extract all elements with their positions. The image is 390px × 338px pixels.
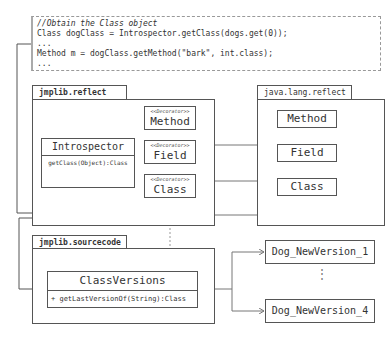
- class-method: + getLastVersionOf(String):Class: [48, 290, 197, 308]
- java-class-class: Class: [277, 178, 337, 196]
- class-name: Class: [145, 183, 195, 196]
- class-name: Introspector: [42, 139, 134, 155]
- class-method: getClass(Object):Class: [42, 155, 134, 170]
- class-name: Method: [145, 115, 195, 128]
- package-tab-java-lang-reflect: java.lang.reflect: [257, 85, 352, 100]
- classversions-class: ClassVersions + getLastVersionOf(String)…: [47, 271, 198, 308]
- stereotype: <<Decorator>>: [145, 176, 195, 183]
- code-line: Method m = dogClass.getMethod("bark", in…: [37, 49, 376, 59]
- ellipsis-icon: ⋮: [316, 267, 328, 281]
- decorator-method: <<Decorator>> Method: [144, 106, 196, 130]
- java-class-method: Method: [277, 110, 337, 128]
- code-line: //Obtain the Class object: [37, 19, 376, 29]
- decorator-field: <<Decorator>> Field: [144, 140, 196, 164]
- version-box-1: Dog_NewVersion_1: [265, 240, 375, 264]
- code-line: ...: [37, 59, 376, 69]
- code-snippet: //Obtain the Class objectClass dogClass …: [31, 16, 381, 71]
- class-name: Field: [145, 149, 195, 162]
- stereotype: <<Decorator>>: [145, 142, 195, 149]
- class-name: ClassVersions: [48, 272, 197, 290]
- code-line: ...: [37, 39, 376, 49]
- decorator-class: <<Decorator>> Class: [144, 174, 196, 198]
- java-class-field: Field: [277, 144, 337, 162]
- stereotype: <<Decorator>>: [145, 108, 195, 115]
- code-line: Class dogClass = Introspector.getClass(d…: [37, 29, 376, 39]
- version-box-4: Dog_NewVersion_4: [265, 299, 375, 323]
- package-tab-jmplib-reflect: jmplib.reflect: [32, 85, 127, 100]
- introspector-class: Introspector getClass(Object):Class: [41, 138, 135, 188]
